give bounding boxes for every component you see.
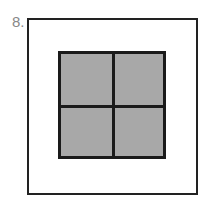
- horizontal-divider: [61, 105, 163, 108]
- figure-number: 8.: [12, 14, 25, 29]
- inner-gray-square: [58, 51, 166, 159]
